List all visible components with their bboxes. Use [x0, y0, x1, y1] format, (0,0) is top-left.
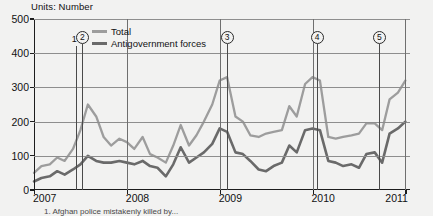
x-tick-label-2011: 2011 [385, 192, 408, 204]
units-title: Units: Number [31, 1, 93, 12]
legend-swatch-total-icon [92, 30, 107, 33]
annotation-stem-4 [317, 44, 318, 190]
y-tick-label-500: 500 [11, 13, 29, 25]
legend-swatch-antigovernment-icon [92, 42, 107, 45]
y-gridline-300 [34, 87, 410, 88]
y-tick-400 [30, 53, 34, 54]
y-tick-500 [30, 18, 34, 19]
legend-item-total: Total [92, 26, 206, 38]
annotation-stem-2 [82, 44, 83, 190]
y-axis-labels: 0100200300400500 [0, 19, 34, 190]
y-axis-line [34, 19, 35, 190]
y-tick-label-200: 200 [11, 116, 29, 128]
x-axis-line [34, 189, 410, 190]
x-tick-label-2010: 2010 [312, 192, 335, 204]
x-separator-2010 [313, 19, 314, 190]
x-separator-2011 [405, 19, 406, 190]
legend-item-antigovernment-forces: Antigovernment forces [92, 38, 206, 50]
chart-figure: Units: Number 0100200300400500 200720082… [0, 0, 433, 216]
y-tick-200 [30, 121, 34, 122]
y-tick-300 [30, 87, 34, 88]
y-gridline-500 [34, 19, 410, 20]
y-tick-label-400: 400 [11, 47, 29, 59]
annotation-stem-3 [227, 44, 228, 190]
x-tick-label-2007: 2007 [33, 192, 56, 204]
x-axis-labels: 20072008200920102011 [0, 192, 433, 208]
annotation-marker-3[interactable]: 3 [221, 31, 234, 44]
x-tick-label-2008: 2008 [126, 192, 149, 204]
annotation-stem-1 [76, 46, 77, 190]
annotation-marker-5[interactable]: 5 [373, 31, 386, 44]
y-gridline-100 [34, 156, 410, 157]
legend: Total Antigovernment forces [92, 26, 206, 49]
y-gridline-200 [34, 122, 410, 123]
x-separator-2009 [220, 19, 221, 190]
series-lines [34, 19, 410, 190]
y-gridline-400 [34, 53, 410, 54]
annotation-marker-4[interactable]: 4 [311, 31, 324, 44]
annotation-marker-2[interactable]: 2 [76, 31, 89, 44]
x-tick-label-2009: 2009 [219, 192, 242, 204]
legend-label-total: Total [111, 26, 131, 38]
footnote: 1. Afghan police mistakenly killed by... [44, 207, 178, 216]
plot-area [34, 19, 410, 190]
y-tick-label-100: 100 [11, 150, 29, 162]
y-tick-100 [30, 155, 34, 156]
legend-label-antigovernment-forces: Antigovernment forces [111, 38, 206, 50]
annotation-stem-5 [379, 44, 380, 190]
y-tick-label-300: 300 [11, 81, 29, 93]
